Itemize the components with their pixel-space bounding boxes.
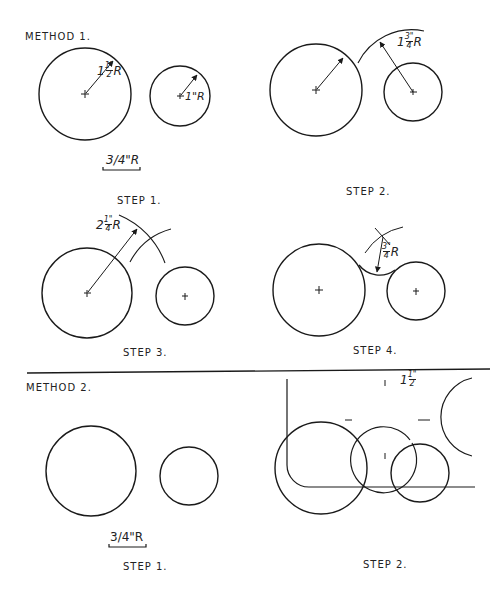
m1-step4-label: STEP 4. xyxy=(353,345,398,356)
whole: 1 xyxy=(400,373,408,387)
whole: 1 xyxy=(397,35,405,49)
numerator: 1" xyxy=(408,371,417,379)
center-mark xyxy=(84,290,91,297)
large-radius-annotation: 11"2R xyxy=(97,62,122,79)
radius-arrow xyxy=(317,58,343,89)
construction-arc-large xyxy=(119,215,165,263)
m1-step3-label: STEP 3. xyxy=(123,347,168,358)
large-circle xyxy=(46,426,136,516)
m2-step1-figure xyxy=(46,426,218,547)
small-circle xyxy=(160,447,218,505)
construction-arc-small xyxy=(130,229,171,262)
template-circle-annotation: 11"2 xyxy=(400,371,416,388)
arc-radius-annotation: 21"4R xyxy=(96,216,121,233)
m2-step1-label: STEP 1. xyxy=(123,561,168,572)
m1-step1-label: STEP 1. xyxy=(117,195,162,206)
center-mark xyxy=(413,288,419,295)
numerator: 3" xyxy=(382,243,391,251)
template-circle xyxy=(351,427,417,493)
large-circle xyxy=(275,422,367,514)
small-radius-annotation: 1"R xyxy=(185,90,205,103)
center-mark xyxy=(182,293,188,300)
center-mark xyxy=(315,286,323,294)
center-mark xyxy=(177,93,184,99)
m1-step3-figure xyxy=(42,215,214,338)
whole: 2 xyxy=(96,218,104,232)
m1-step4-figure xyxy=(273,227,445,336)
suffix: R xyxy=(391,245,399,259)
suffix: R xyxy=(413,35,421,49)
radius-bracket xyxy=(103,167,140,170)
section-divider xyxy=(27,369,490,373)
suffix: R xyxy=(113,64,121,78)
suffix: R xyxy=(112,218,120,232)
denominator: 2 xyxy=(408,380,417,388)
m2-step2-figure xyxy=(275,378,475,514)
m1-step1-figure xyxy=(39,48,210,170)
fillet-radius-annotation: 3/4"R xyxy=(110,530,143,544)
whole: 1 xyxy=(97,64,105,78)
m2-step2-label: STEP 2. xyxy=(363,559,408,570)
adjacent-template-circle xyxy=(441,378,472,456)
m1-step2-label: STEP 2. xyxy=(346,186,391,197)
drawing-canvas xyxy=(0,0,495,599)
radius-arrow xyxy=(88,229,137,292)
tick-marks xyxy=(345,380,430,459)
method-1-title: METHOD 1. xyxy=(25,31,91,42)
small-circle xyxy=(391,444,449,502)
fillet-radius-annotation: 3/4"R xyxy=(106,153,139,167)
radius-bracket xyxy=(109,544,146,547)
fillet-radius-annotation: 3"4R xyxy=(382,243,399,260)
method-2-title: METHOD 2. xyxy=(26,382,92,393)
arc-radius-annotation: 13"4R xyxy=(397,33,422,50)
denominator: 4 xyxy=(382,252,391,260)
